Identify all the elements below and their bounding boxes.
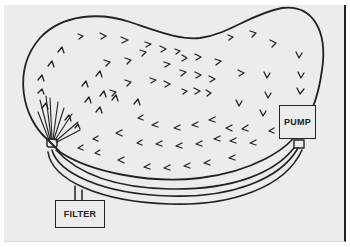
jet-spray-icon — [38, 96, 80, 142]
filter-box: FILTER — [55, 200, 105, 228]
flow-arrows-left — [78, 115, 274, 170]
pool-outline — [23, 8, 323, 180]
pump-label: PUMP — [284, 117, 311, 127]
flow-arrows-up — [38, 47, 140, 129]
pump-box: PUMP — [279, 105, 316, 139]
filter-label: FILTER — [64, 209, 97, 219]
flow-arrows-right — [78, 31, 276, 96]
pump-outlet — [294, 140, 304, 148]
